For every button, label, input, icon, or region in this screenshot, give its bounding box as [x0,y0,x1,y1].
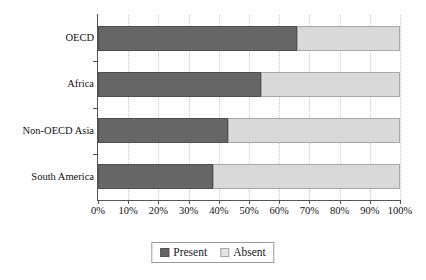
x-axis-tick-label: 50% [239,205,258,217]
x-axis-tick-label: 10% [119,205,138,217]
bar-row [98,72,400,97]
x-axis-tick-label: 20% [149,205,168,217]
x-axis-tick [370,200,371,204]
x-axis-tick [158,200,159,204]
gridline [400,15,401,200]
bar-segment-absent [213,164,400,189]
y-axis-tick [93,61,98,62]
chart-legend: Present Absent [151,242,274,263]
x-axis-tick [189,200,190,204]
stacked-bar-chart: OECDAfricaNon-OECD AsiaSouth America 0%1… [0,0,426,280]
light-gray-swatch-icon [220,248,229,257]
x-axis-tick [249,200,250,204]
y-axis-tick [93,154,98,155]
category-label: OECD [65,32,94,44]
bar-segment-present [98,164,213,189]
x-axis-tick [309,200,310,204]
bar-segment-absent [261,72,400,97]
bar-row [98,164,400,189]
x-axis-tick-label: 60% [270,205,289,217]
legend-item-absent: Absent [220,245,266,259]
x-axis-tick [128,200,129,204]
category-label: South America [31,171,94,183]
legend-label-absent: Absent [233,245,266,259]
x-axis-tick-label: 0% [91,205,105,217]
y-axis-tick [93,108,98,109]
x-axis-tick [340,200,341,204]
x-axis-tick [219,200,220,204]
legend-item-present: Present [160,245,207,259]
x-axis-tick-label: 40% [209,205,228,217]
x-axis-tick [279,200,280,204]
x-axis-tick-label: 90% [360,205,379,217]
legend-label-present: Present [173,245,207,259]
bar-row [98,118,400,143]
bar-segment-present [98,118,228,143]
x-axis-tick-label: 70% [300,205,319,217]
bar-row [98,26,400,51]
bar-segment-present [98,72,261,97]
bar-segment-absent [228,118,400,143]
x-axis-tick-label: 30% [179,205,198,217]
category-label: Africa [67,78,94,90]
dark-gray-swatch-icon [160,248,169,257]
bar-segment-present [98,26,297,51]
plot-area [98,15,400,200]
x-axis-tick [98,200,99,204]
x-axis-tick [400,200,401,204]
x-axis-tick-label: 80% [330,205,349,217]
bar-segment-absent [297,26,400,51]
category-label: Non-OECD Asia [23,125,94,137]
x-axis-tick-label: 100% [388,205,413,217]
